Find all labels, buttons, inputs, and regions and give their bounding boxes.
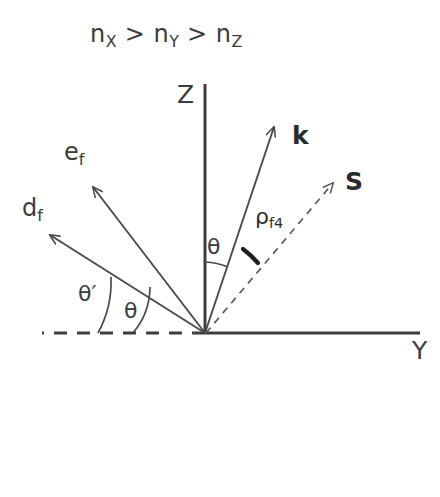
theta-prime-df-arc xyxy=(98,277,111,333)
theta-ef-label: θ xyxy=(124,300,137,322)
s-vector-label: S xyxy=(345,169,363,194)
y-axis-label: Y xyxy=(412,338,427,363)
title-ny-subscript: Y xyxy=(169,32,179,51)
theta-k-z-arc xyxy=(205,262,228,267)
rho-f4-arc xyxy=(243,249,258,263)
rho-base: ρ xyxy=(255,204,269,229)
z-axis-label: Z xyxy=(177,82,194,107)
title-gt-2: > xyxy=(179,20,216,48)
df-base: d xyxy=(22,194,37,222)
title-nz: n xyxy=(216,20,232,48)
optical-indicatrix-diagram: nX > nY > nZ Z Y k S ef df θ ρf4 θ θ′ xyxy=(0,0,440,497)
ef-subscript: f xyxy=(79,150,85,169)
df-vector-label: df xyxy=(22,196,43,224)
refractive-index-title: nX > nY > nZ xyxy=(90,22,242,50)
ef-vector-ray xyxy=(93,187,205,333)
df-subscript: f xyxy=(37,206,43,225)
title-nz-subscript: Z xyxy=(231,32,242,51)
ef-base: e xyxy=(64,138,79,166)
title-nx: n xyxy=(90,20,106,48)
title-ny: n xyxy=(153,20,169,48)
rho-subscript: f4 xyxy=(269,215,283,231)
k-vector-label: k xyxy=(292,123,309,148)
theta-k-z-label: θ xyxy=(207,236,220,258)
title-gt-1: > xyxy=(117,20,154,48)
ef-vector-label: ef xyxy=(64,140,84,168)
rho-f4-label: ρf4 xyxy=(255,206,283,231)
title-nx-subscript: X xyxy=(106,32,117,51)
theta-prime-df-label: θ′ xyxy=(78,283,96,305)
